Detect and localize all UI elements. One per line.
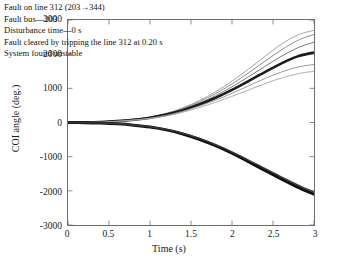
y-axis-title: COI angle (deg.) [10, 15, 21, 222]
x-tick-label: 2.5 [257, 229, 291, 239]
y-tick-label: 1000 [22, 83, 62, 93]
annotation-line-4: Fault cleared by tripping the line 312 a… [4, 37, 162, 49]
x-tick-label: 1 [133, 229, 167, 239]
y-tick-label: 0 [22, 118, 62, 128]
annotation-line-1: Fault on line 312 (203→344) [4, 2, 162, 14]
x-tick-label: 1.5 [174, 229, 208, 239]
curve-unstable-group-lower-thick [68, 123, 314, 195]
y-tick-label: 3000 [22, 14, 62, 24]
curve-unstable-group-upper-4 [68, 64, 314, 122]
x-tick-label: 2 [215, 229, 249, 239]
y-tick-label: 2000 [22, 49, 62, 59]
x-tick-label: 0.5 [91, 229, 125, 239]
curve-unstable-group-upper-thick [68, 52, 314, 122]
curve-unstable-group-upper-5 [68, 71, 314, 122]
annotation-line-3: Disturbance time—0 s [4, 25, 162, 37]
y-tick-label: -1000 [22, 152, 62, 162]
x-tick-label: 0 [50, 229, 84, 239]
chart-figure: Fault on line 312 (203→344) Fault bus—20… [0, 0, 338, 265]
x-tick-label: 3 [298, 229, 332, 239]
y-tick-label: -2000 [22, 187, 62, 197]
x-axis-title: Time (s) [0, 243, 338, 254]
curve-unstable-group-lower-2 [68, 123, 314, 193]
